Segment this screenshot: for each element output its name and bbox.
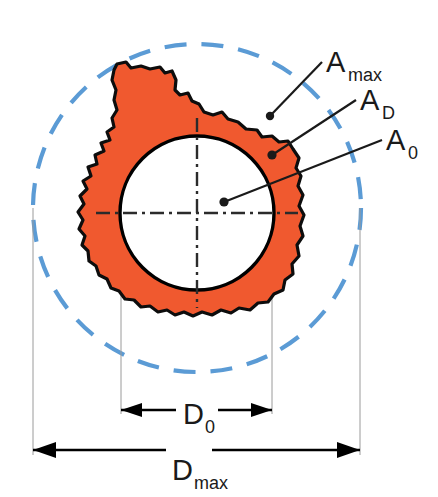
a-d-leader-dot: [267, 150, 276, 159]
particle-cross-section-diagram: A max A D A 0 D 0 D max: [0, 0, 438, 497]
label-a-d-base: A: [360, 84, 380, 116]
figure-container: A max A D A 0 D 0 D max: [0, 0, 438, 497]
label-d-zero-subscript: 0: [205, 417, 215, 437]
label-d-max-subscript: max: [194, 473, 228, 493]
label-a-max-base: A: [326, 46, 346, 78]
label-d-max-base: D: [172, 454, 193, 486]
label-a-max-subscript: max: [348, 65, 382, 85]
label-a-zero-subscript: 0: [408, 143, 418, 163]
a-max-leader-dot: [266, 112, 274, 120]
a-zero-leader-dot: [219, 197, 228, 206]
label-a-zero-base: A: [386, 124, 406, 156]
label-a-d-subscript: D: [382, 103, 395, 123]
label-d-zero-base: D: [183, 398, 204, 430]
